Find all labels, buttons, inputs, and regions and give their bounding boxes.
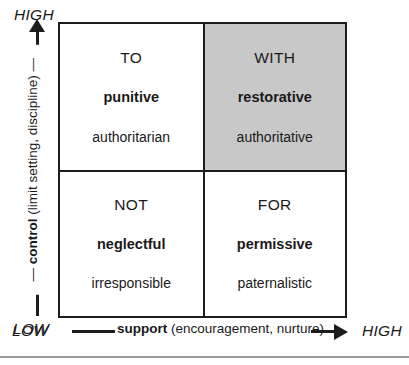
quadrant-approach: punitive	[103, 90, 159, 105]
quadrant-preposition: TO	[120, 50, 142, 66]
y-axis-dash-left: —	[25, 264, 40, 281]
quadrant-bottom-left[interactable]: NOT neglectful irresponsible	[60, 170, 203, 316]
quadrant-preposition: NOT	[114, 197, 148, 213]
bottom-divider	[0, 356, 409, 358]
y-axis-title-detail	[25, 215, 40, 219]
quadrant-matrix: TO punitive authoritarian WITH restorati…	[58, 22, 347, 318]
quadrant-approach: neglectful	[97, 237, 165, 252]
quadrant-preposition: WITH	[254, 50, 295, 66]
x-axis-title-detail: (encouragement, nurture)	[171, 321, 324, 336]
quadrant-style: authoritative	[237, 130, 313, 144]
quadrant-approach: restorative	[238, 90, 312, 105]
quadrant-style: paternalistic	[237, 276, 312, 290]
y-axis-title: — control (limit setting, discipline) —	[23, 45, 43, 295]
x-axis-title-bold: support	[117, 321, 167, 336]
x-axis-title: support (encouragement, nurture)	[117, 322, 324, 336]
y-axis: HIGH — control (limit setting, disciplin…	[0, 0, 58, 345]
quadrant-style: authoritarian	[92, 130, 170, 144]
quadrant-bottom-right[interactable]: FOR permissive paternalistic	[203, 170, 346, 316]
x-axis-arrow-right-icon	[334, 324, 348, 340]
y-axis-dash-right: —	[25, 58, 40, 75]
quadrant-approach: permissive	[237, 237, 313, 252]
x-axis-high-label: HIGH	[362, 322, 402, 340]
social-discipline-window-diagram: HIGH — control (limit setting, disciplin…	[0, 0, 409, 365]
x-axis-low-label: LOW	[12, 322, 48, 340]
y-axis-title-bold: control	[25, 219, 40, 265]
x-axis-line-left	[72, 330, 115, 333]
quadrant-preposition: FOR	[258, 197, 292, 213]
quadrant-style: irresponsible	[92, 276, 171, 290]
y-axis-title-detail-text: (limit setting, discipline)	[25, 75, 40, 215]
x-axis: LOW support (encouragement, nurture) HIG…	[0, 320, 409, 350]
quadrant-top-left[interactable]: TO punitive authoritarian	[60, 24, 203, 170]
quadrant-top-right[interactable]: WITH restorative authoritative	[203, 24, 346, 170]
